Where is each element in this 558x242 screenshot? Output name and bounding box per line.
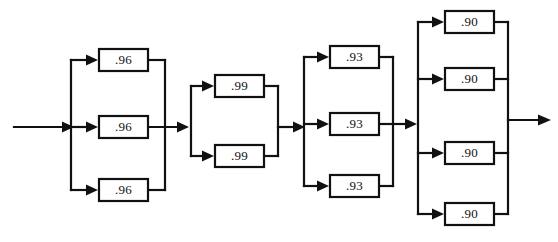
block-label: .96 [115,119,132,134]
block-label: .93 [346,49,363,64]
block-label: .90 [461,206,478,221]
block-label: .99 [231,148,248,163]
stage-2-group: .99 .99 [191,75,305,167]
block-stage4-1: .90 [445,11,494,33]
block-label: .96 [115,52,132,67]
block-label: .96 [115,182,132,197]
stage-3-group: .93 .93 .93 [304,46,417,197]
output-arrow [508,115,551,126]
block-label: .99 [231,78,248,93]
block-stage2-2: .99 [215,145,264,167]
reliability-block-diagram: .96 .96 .96 [0,0,558,242]
block-stage4-4: .90 [445,203,494,225]
block-stage3-2: .93 [330,113,379,135]
block-stage1-3: .96 [99,179,148,201]
stage-4-group: .90 .90 .90 .90 [418,11,508,225]
block-label: .90 [461,71,478,86]
block-label: .93 [346,178,363,193]
block-label: .90 [461,145,478,160]
block-label: .93 [346,116,363,131]
block-stage1-2: .96 [99,116,148,138]
diagram-canvas: .96 .96 .96 [0,0,558,242]
block-stage3-3: .93 [330,175,379,197]
block-stage1-1: .96 [99,49,148,71]
block-label: .90 [461,14,478,29]
block-stage4-3: .90 [445,142,494,164]
input-arrow [14,122,74,133]
block-stage3-1: .93 [330,46,379,68]
block-stage2-1: .99 [215,75,264,97]
stage-1-group: .96 .96 .96 [71,49,189,201]
block-stage4-2: .90 [445,68,494,90]
